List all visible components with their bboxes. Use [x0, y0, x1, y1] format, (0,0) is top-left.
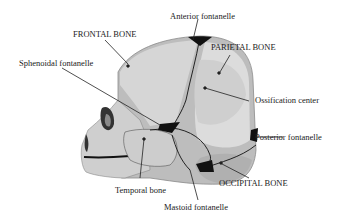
label-parietal-bone: PARIETAL BONE [211, 43, 276, 52]
label-sphenoidal-fontanelle: Sphenoidal fontanelle [19, 59, 93, 68]
label-occipital-bone: OCCIPITAL BONE [219, 179, 288, 188]
label-ossification-center: Ossification center [255, 96, 319, 105]
label-mastoid-fontanelle: Mastoid fontanelle [164, 203, 228, 212]
skull-illustration [0, 0, 341, 223]
label-posterior-fontanelle: Posterior fontanelle [255, 133, 322, 142]
temporal-bone-region [124, 129, 177, 166]
label-frontal-bone: FRONTAL BONE [73, 30, 136, 39]
label-temporal-bone: Temporal bone [115, 186, 166, 195]
skull-diagram: Anterior fontanelle FRONTAL BONE PARIETA… [0, 0, 341, 223]
label-anterior-fontanelle: Anterior fontanelle [170, 12, 235, 21]
